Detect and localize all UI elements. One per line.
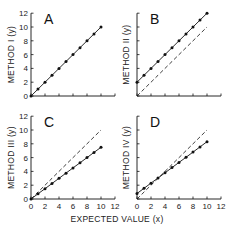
data-point	[44, 81, 47, 84]
data-point	[58, 177, 61, 180]
x-tick-label: 4	[163, 202, 168, 211]
x-tick-label: 10	[203, 202, 212, 211]
data-point	[171, 46, 174, 49]
data-point	[65, 60, 68, 63]
data-point	[199, 145, 202, 148]
data-point	[79, 161, 82, 164]
data-point	[86, 156, 89, 159]
y-axis-title: METHOD III (y)	[6, 126, 16, 189]
data-point	[37, 88, 40, 91]
y-axis-title: METHOD II (y)	[121, 25, 131, 85]
data-point	[79, 46, 82, 49]
data-point	[136, 81, 139, 84]
data-point	[143, 187, 146, 190]
x-tick-label: 8	[191, 202, 196, 211]
data-point	[164, 53, 167, 56]
data-point	[72, 166, 75, 169]
data-point	[72, 53, 75, 56]
data-point	[192, 26, 195, 29]
x-tick-label: 0	[135, 202, 140, 211]
x-tick-label: 0	[29, 202, 34, 211]
y-axis-title: METHOD I (y)	[6, 26, 16, 83]
data-point	[185, 156, 188, 159]
data-point	[206, 12, 209, 15]
y-tick-label: 8	[24, 37, 29, 46]
identity-line	[31, 130, 101, 199]
y-axis-title: METHOD IV (y)	[121, 126, 131, 189]
data-point	[44, 187, 47, 190]
panel-letter: C	[44, 114, 54, 130]
x-tick-label: 6	[71, 202, 76, 211]
data-point	[136, 192, 139, 195]
data-point	[206, 140, 209, 143]
y-tick-label: 0	[24, 92, 29, 101]
data-point	[86, 39, 89, 42]
data-point	[51, 74, 54, 77]
x-tick-label: 8	[85, 202, 90, 211]
y-tick-label: 10	[19, 23, 28, 32]
data-point	[185, 32, 188, 35]
panel-d: 024681012METHOD IV (y)D	[121, 114, 226, 211]
data-point	[143, 74, 146, 77]
x-axis-title: EXPECTED VALUE (x)	[70, 214, 163, 224]
data-point	[93, 32, 96, 35]
data-point	[93, 151, 96, 154]
identity-line	[137, 27, 207, 96]
y-tick-label: 12	[19, 9, 28, 18]
y-tick-label: 4	[24, 167, 29, 176]
data-point	[150, 67, 153, 70]
x-tick-label: 12	[111, 202, 120, 211]
x-tick-label: 4	[57, 202, 62, 211]
data-point	[192, 151, 195, 154]
data-point	[30, 95, 33, 98]
panel-letter: A	[44, 11, 54, 27]
x-tick-label: 10	[97, 202, 106, 211]
panel-a: 024681012METHOD I (y)A	[6, 9, 115, 101]
y-tick-label: 12	[19, 112, 28, 121]
x-tick-label: 2	[43, 202, 48, 211]
x-tick-label: 12	[217, 202, 226, 211]
y-tick-label: 8	[24, 140, 29, 149]
y-tick-label: 2	[24, 78, 29, 87]
data-point	[171, 166, 174, 169]
data-point	[157, 60, 160, 63]
y-tick-label: 2	[24, 181, 29, 190]
identity-line	[137, 130, 207, 199]
panel-b: METHOD II (y)B	[121, 11, 221, 96]
panel-letter: B	[150, 11, 159, 27]
x-tick-label: 2	[149, 202, 154, 211]
data-point	[58, 67, 61, 70]
data-point	[100, 146, 103, 149]
x-tick-label: 6	[177, 202, 182, 211]
panel-letter: D	[150, 114, 160, 130]
data-point	[178, 39, 181, 42]
y-tick-label: 6	[24, 154, 29, 163]
data-point	[178, 161, 181, 164]
data-point	[199, 19, 202, 22]
data-point	[100, 26, 103, 29]
data-point	[65, 172, 68, 175]
data-point	[51, 182, 54, 185]
panel-c: 024681012024681012METHOD III (y)C	[6, 112, 120, 211]
y-tick-label: 4	[24, 64, 29, 73]
y-tick-label: 10	[19, 126, 28, 135]
chart-figure: 024681012METHOD I (y)AMETHOD II (y)B0246…	[0, 0, 233, 228]
y-tick-label: 6	[24, 51, 29, 60]
